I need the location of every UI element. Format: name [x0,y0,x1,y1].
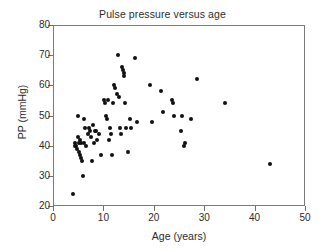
x-tick-label: 20 [139,213,169,223]
x-tick-mark [255,206,256,211]
x-tick-mark [103,206,104,211]
x-tick-mark [305,206,306,211]
x-tick-mark [53,206,54,211]
x-tick-label: 50 [290,213,320,223]
y-tick-label: 30 [22,171,50,181]
scatter-chart-figure: Pulse pressure versus age 20304050607080… [0,0,325,251]
x-tick-mark [204,206,205,211]
x-tick-label: 30 [189,213,219,223]
plot-area-frame [53,25,305,206]
y-axis-title: PP (mmHg) [16,52,28,172]
x-tick-label: 10 [88,213,118,223]
y-tick-label: 20 [22,201,50,211]
x-tick-label: 0 [38,213,68,223]
x-tick-mark [154,206,155,211]
x-tick-label: 40 [240,213,270,223]
y-tick-label: 80 [22,20,50,30]
x-axis-title: Age (years) [53,230,305,242]
